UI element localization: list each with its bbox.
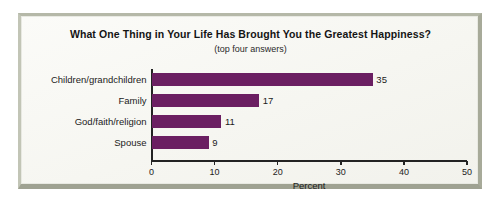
bar-value-label: 17	[263, 95, 274, 106]
x-tick-50	[466, 161, 468, 165]
bar-value-label: 11	[225, 116, 235, 127]
category-label: Children/grandchildren	[27, 74, 147, 85]
x-tick-10	[214, 161, 216, 165]
chart-page: What One Thing in Your Life Has Brought …	[0, 0, 501, 208]
category-label: Spouse	[27, 137, 147, 148]
chart-plot-area: What One Thing in Your Life Has Brought …	[22, 17, 479, 185]
bar-row: Children/grandchildren35	[22, 73, 479, 86]
bar-row: Spouse9	[22, 136, 479, 149]
bar-value-label: 9	[212, 137, 217, 148]
x-tick-20	[277, 161, 279, 165]
bar	[152, 73, 373, 86]
chart-title: What One Thing in Your Life Has Brought …	[22, 28, 479, 40]
x-axis-line	[151, 160, 467, 162]
x-tick-label-10: 10	[210, 167, 220, 177]
x-tick-label-30: 30	[336, 167, 346, 177]
x-tick-label-40: 40	[399, 167, 409, 177]
bar	[152, 136, 209, 149]
x-tick-label-50: 50	[462, 167, 472, 177]
bar-row: God/faith/religion11	[22, 115, 479, 128]
chart-subtitle: (top four answers)	[22, 44, 479, 54]
x-tick-0	[151, 161, 153, 165]
frame-inner-bevel: What One Thing in Your Life Has Brought …	[21, 16, 478, 184]
bar	[152, 115, 221, 128]
bar	[152, 94, 259, 107]
x-tick-40	[403, 161, 405, 165]
category-label: Family	[27, 95, 147, 106]
bar-value-label: 35	[376, 74, 387, 85]
x-axis-title: Percent	[151, 180, 467, 191]
x-tick-label-0: 0	[149, 167, 154, 177]
picture-frame: What One Thing in Your Life Has Brought …	[18, 13, 482, 189]
x-tick-30	[340, 161, 342, 165]
x-tick-label-20: 20	[273, 167, 283, 177]
category-label: God/faith/religion	[27, 116, 147, 127]
bar-row: Family17	[22, 94, 479, 107]
